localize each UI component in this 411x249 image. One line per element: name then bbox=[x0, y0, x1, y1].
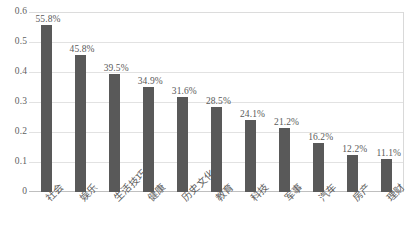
bar-value-label: 39.5% bbox=[104, 63, 129, 73]
y-axis-tick-label: 0.2 bbox=[3, 127, 27, 137]
bar-value-label: 24.1% bbox=[240, 109, 265, 119]
bar[interactable]: 24.1% bbox=[245, 120, 256, 192]
bar-slot: 11.1% bbox=[370, 12, 404, 192]
bar-slot: 24.1% bbox=[233, 12, 267, 192]
bar-value-label: 34.9% bbox=[138, 76, 163, 86]
bar-value-label: 11.1% bbox=[376, 148, 401, 158]
y-axis-tick-label: 0.3 bbox=[3, 97, 27, 107]
y-axis-tick-label: 0 bbox=[3, 187, 27, 197]
bar[interactable]: 39.5% bbox=[109, 74, 120, 193]
bar-value-label: 16.2% bbox=[308, 132, 333, 142]
bar-value-label: 31.6% bbox=[172, 86, 197, 96]
x-axis: 社会娱乐生活技巧健康历史文化教育科技军事汽车房产理财 bbox=[29, 193, 404, 249]
x-axis-tick: 历史文化 bbox=[165, 193, 199, 249]
x-axis-tick: 科技 bbox=[234, 193, 268, 249]
y-axis-tick-label: 0.6 bbox=[3, 7, 27, 17]
bar-value-label: 55.8% bbox=[36, 14, 61, 24]
bar-slot: 16.2% bbox=[302, 12, 336, 192]
bar-value-label: 45.8% bbox=[70, 44, 95, 54]
bar[interactable]: 45.8% bbox=[75, 55, 86, 192]
y-axis: 0.60.50.40.30.20.10 bbox=[0, 12, 27, 192]
x-axis-tick: 汽车 bbox=[302, 193, 336, 249]
x-axis-tick: 理财 bbox=[370, 193, 404, 249]
x-axis-tick: 健康 bbox=[131, 193, 165, 249]
bar[interactable]: 31.6% bbox=[177, 97, 188, 192]
bar-chart: 0.60.50.40.30.20.10 55.8%45.8%39.5%34.9%… bbox=[0, 0, 411, 249]
x-axis-tick: 社会 bbox=[29, 193, 63, 249]
x-axis-tick: 生活技巧 bbox=[97, 193, 131, 249]
bar[interactable]: 16.2% bbox=[313, 143, 324, 192]
bar-value-label: 12.2% bbox=[342, 144, 367, 154]
bar-value-label: 21.2% bbox=[274, 117, 299, 127]
x-axis-tick: 教育 bbox=[199, 193, 233, 249]
bar-series: 55.8%45.8%39.5%34.9%31.6%28.5%24.1%21.2%… bbox=[29, 12, 404, 192]
bar-slot: 39.5% bbox=[97, 12, 131, 192]
x-axis-tick: 娱乐 bbox=[63, 193, 97, 249]
bar[interactable]: 21.2% bbox=[279, 128, 290, 192]
bar-slot: 21.2% bbox=[268, 12, 302, 192]
bar-slot: 12.2% bbox=[336, 12, 370, 192]
y-axis-tick-label: 0.4 bbox=[3, 67, 27, 77]
bar-slot: 31.6% bbox=[165, 12, 199, 192]
bar-value-label: 28.5% bbox=[206, 96, 231, 106]
bar-slot: 45.8% bbox=[63, 12, 97, 192]
bar[interactable]: 11.1% bbox=[381, 159, 392, 192]
y-axis-tick-label: 0.5 bbox=[3, 37, 27, 47]
y-axis-tick-label: 0.1 bbox=[3, 157, 27, 167]
bar-slot: 28.5% bbox=[199, 12, 233, 192]
x-axis-tick: 军事 bbox=[268, 193, 302, 249]
bar-slot: 55.8% bbox=[29, 12, 63, 192]
bar[interactable]: 55.8% bbox=[41, 25, 52, 192]
x-axis-tick: 房产 bbox=[336, 193, 370, 249]
bar-slot: 34.9% bbox=[131, 12, 165, 192]
bar[interactable]: 28.5% bbox=[211, 107, 222, 193]
bar[interactable]: 12.2% bbox=[347, 155, 358, 192]
